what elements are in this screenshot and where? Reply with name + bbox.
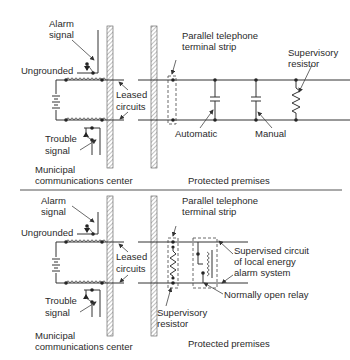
supervisory-resistor-label-2: resistor	[288, 58, 319, 69]
trouble-signal-label: Trouble	[45, 295, 77, 306]
alarm-signal-label: Alarm	[41, 195, 66, 206]
alarm-signal-switch	[77, 212, 98, 236]
coil-top	[64, 78, 113, 82]
leased-circuits-label: Leased	[116, 251, 147, 262]
relay-box	[193, 238, 217, 288]
relay-label: Normally open relay	[224, 289, 309, 300]
municipal-center-label: Municipal	[35, 164, 75, 175]
ungrounded-label: Ungrounded	[21, 65, 73, 76]
leased-circuits-label-2: circuits	[116, 101, 146, 112]
manual-switch	[251, 78, 261, 122]
coil-bottom	[64, 118, 113, 122]
terminal-strip-label-2: terminal strip	[182, 41, 236, 52]
protected-premises-label: Protected premises	[188, 175, 270, 186]
municipal-center-label-2: communications center	[35, 175, 133, 186]
alarm-signal-label: Alarm	[49, 18, 74, 29]
supervisory-resistor-label-2: resistor	[157, 318, 188, 329]
alarm-signal-switch	[77, 30, 98, 75]
trouble-signal-label-2: signal	[45, 145, 70, 156]
terminal-strip-label: Parallel telephone	[182, 30, 258, 41]
wall-municipal	[107, 196, 113, 336]
protected-premises-label: Protected premises	[188, 338, 270, 349]
trouble-signal-label-2: signal	[45, 307, 70, 318]
supervised-circuit-label: Supervised circuit	[234, 245, 309, 256]
ungrounded-label: Ungrounded	[21, 227, 73, 238]
municipal-center-label-2: communications center	[35, 341, 133, 352]
terminal-strip-label-2: terminal strip	[182, 206, 236, 217]
supervisory-resistor	[292, 78, 300, 122]
coil-top	[64, 240, 113, 244]
wall-premises	[151, 26, 157, 168]
supervised-circuit-label-2: of local energy	[234, 256, 296, 267]
top-panel: Alarm signal Ungrounded	[21, 18, 350, 186]
manual-label: Manual	[255, 128, 286, 139]
trouble-signal-switch	[83, 288, 100, 317]
alarm-signal-label-2: signal	[41, 206, 66, 217]
automatic-label: Automatic	[175, 128, 217, 139]
alarm-signal-label-2: signal	[49, 29, 74, 40]
municipal-center-label: Municipal	[35, 330, 75, 341]
battery-icon	[52, 242, 66, 283]
leased-circuits-label-2: circuits	[116, 263, 146, 274]
wall-municipal	[107, 26, 113, 168]
terminal-strip-label: Parallel telephone	[182, 195, 258, 206]
supervisory-resistor-label: Supervisory	[157, 307, 207, 318]
normally-open-relay	[196, 242, 212, 283]
automatic-switch	[210, 78, 220, 122]
bottom-panel: Alarm signal Ungrounded Leased	[21, 195, 309, 352]
terminal-strip	[168, 76, 176, 124]
alarm-circuit-diagram: Alarm signal Ungrounded	[0, 0, 350, 360]
trouble-signal-label: Trouble	[45, 133, 77, 144]
leased-circuits-label: Leased	[116, 89, 147, 100]
supervisory-resistor-label: Supervisory	[288, 47, 338, 58]
trouble-signal-switch	[83, 126, 100, 155]
battery-icon	[52, 80, 66, 120]
supervisory-resistor	[170, 240, 176, 285]
coil-bottom	[64, 281, 113, 285]
supervised-circuit-label-3: alarm system	[234, 267, 291, 278]
